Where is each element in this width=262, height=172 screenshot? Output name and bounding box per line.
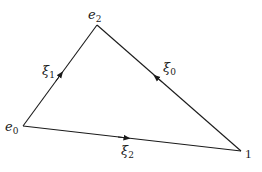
triangle-diagram: e2 e0 1 ξ1 ξ0 ξ2 bbox=[0, 0, 262, 172]
edge-xi1 bbox=[23, 25, 97, 126]
vertex-label-1: 1 bbox=[245, 146, 252, 161]
arrow-xi0-icon bbox=[156, 77, 162, 82]
vertex-label-e2: e2 bbox=[88, 7, 101, 24]
arrow-xi1-icon bbox=[56, 74, 61, 81]
edge-xi0 bbox=[97, 25, 241, 151]
edge-xi2 bbox=[23, 126, 241, 151]
edge-label-xi2: ξ2 bbox=[121, 143, 134, 160]
arrow-xi2-icon bbox=[118, 137, 127, 138]
vertex-label-e0: e0 bbox=[5, 119, 19, 136]
edge-label-xi1: ξ1 bbox=[42, 63, 55, 80]
edge-label-xi0: ξ0 bbox=[163, 60, 176, 77]
